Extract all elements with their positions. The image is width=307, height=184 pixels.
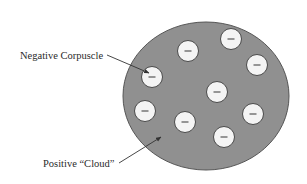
negative-corpuscle — [175, 112, 196, 133]
negative-corpuscle-label: Negative Corpuscle — [20, 50, 103, 61]
positive-cloud — [123, 22, 289, 170]
negative-corpuscle — [142, 67, 163, 88]
negative-corpuscle — [221, 29, 242, 50]
negative-corpuscle — [135, 101, 156, 122]
negative-corpuscle — [243, 104, 264, 125]
negative-corpuscle — [178, 41, 199, 62]
positive-cloud-label: Positive “Cloud” — [43, 158, 115, 169]
plum-pudding-diagram: Negative Corpuscle Positive “Cloud” — [0, 0, 307, 184]
negative-corpuscle — [214, 127, 235, 148]
negative-corpuscle — [207, 82, 228, 103]
negative-corpuscle — [247, 55, 268, 76]
